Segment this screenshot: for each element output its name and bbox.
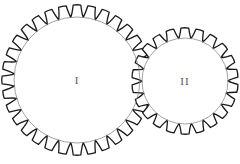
- gear-two-label: II: [180, 76, 189, 87]
- gear-one-label: I: [75, 75, 80, 86]
- gear-drawing-canvas: [0, 0, 240, 164]
- gear-diagram: I II: [0, 0, 240, 164]
